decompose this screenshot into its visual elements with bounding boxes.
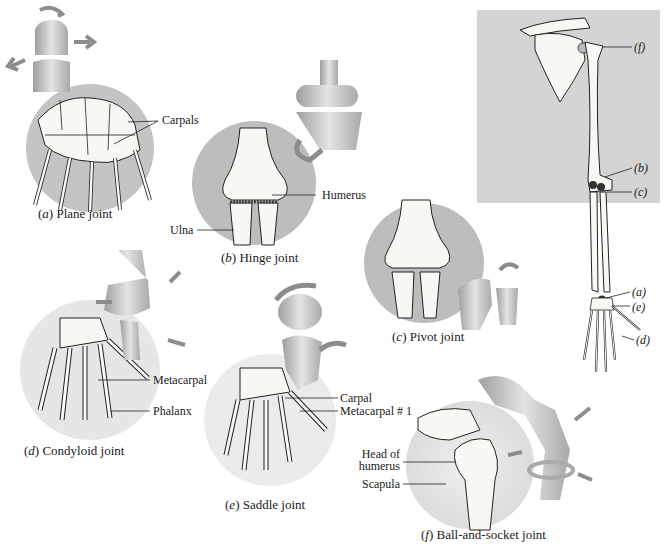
caption-text: Condyloid joint	[42, 443, 124, 458]
caption-saddle-joint: (e) Saddle joint	[225, 497, 305, 513]
caption-letter: c	[396, 329, 402, 344]
key-label-f: (f)	[634, 41, 645, 54]
caption-letter: e	[229, 497, 235, 512]
label-metacarpal-1: Metacarpal # 1	[340, 405, 412, 418]
label-metacarpal: Metacarpal	[153, 374, 207, 387]
pivot-joint-illustration	[364, 200, 518, 330]
caption-letter: b	[225, 250, 232, 265]
hinge-joint-illustration	[192, 60, 362, 245]
key-label-c: (c)	[634, 186, 647, 199]
label-phalanx: Phalanx	[153, 405, 192, 418]
label-carpals: Carpals	[162, 114, 199, 127]
caption-text: Saddle joint	[243, 497, 305, 512]
key-label-e: (e)	[632, 301, 645, 314]
caption-letter: d	[28, 443, 35, 458]
label-scapula: Scapula	[358, 478, 400, 491]
key-label-a: (a)	[632, 286, 646, 299]
caption-hinge-joint: (b) Hinge joint	[221, 250, 298, 266]
caption-condyloid-joint: (d) Condyloid joint	[24, 443, 124, 459]
label-humerus-f: humerus	[358, 460, 400, 473]
caption-plane-joint: (a) Plane joint	[38, 206, 112, 222]
caption-pivot-joint: (c) Pivot joint	[392, 329, 464, 345]
caption-text: Hinge joint	[239, 250, 298, 265]
caption-ball-and-socket-joint: (f) Ball-and-socket joint	[421, 527, 546, 543]
label-ulna: Ulna	[170, 224, 193, 237]
plane-joint-illustration	[8, 8, 158, 212]
caption-letter: a	[42, 206, 49, 221]
caption-text: Pivot joint	[410, 329, 465, 344]
saddle-joint-illustration	[204, 285, 346, 486]
caption-text: Ball-and-socket joint	[437, 527, 546, 542]
caption-letter: f	[425, 527, 429, 542]
key-label-d: (d)	[636, 334, 650, 347]
key-label-b: (b)	[634, 162, 648, 175]
illustration-canvas	[0, 0, 666, 551]
label-humerus: Humerus	[322, 189, 366, 202]
caption-text: Plane joint	[56, 206, 112, 221]
ball-and-socket-illustration	[403, 376, 592, 530]
